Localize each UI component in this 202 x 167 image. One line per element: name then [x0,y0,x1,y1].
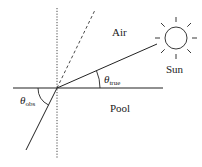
refraction-diagram: Air Sun Pool θtrue θobs [0,0,202,167]
pool-label: Pool [110,102,130,114]
theta-true-label: θtrue [104,73,120,87]
theta-obs-arc [38,88,49,105]
refracted-ray [26,88,57,150]
sun-icon [155,17,197,59]
apparent-ray-extension [57,10,95,88]
theta-true-arc [97,71,101,88]
air-label: Air [112,26,127,38]
sun-label: Sun [166,63,184,75]
theta-obs-label: θobs [20,94,35,108]
